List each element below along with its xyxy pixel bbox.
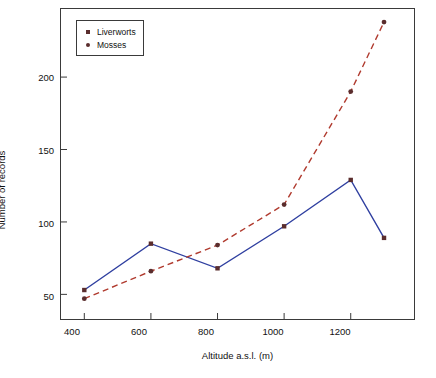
data-point-mosses-600 [149,269,154,274]
x-axis-title: Altitude a.s.l. (m) [60,350,415,361]
x-tick-label-400: 400 [52,326,92,337]
x-tick-label-1200: 1200 [320,326,360,337]
legend-item-mosses: Mosses [82,38,136,51]
square-marker-icon [82,30,94,34]
y-tick-label-50: 50 [14,291,54,302]
y-tick-label-200: 200 [14,72,54,83]
data-point-liverworts-1000 [282,224,286,228]
data-point-mosses-1200 [348,89,353,94]
x-tick-label-800: 800 [186,326,226,337]
data-point-liverworts-1200 [349,178,353,182]
data-point-mosses-800 [215,243,220,248]
data-point-liverworts-800 [215,266,219,270]
legend-label-liverworts: Liverworts [97,27,136,37]
legend: Liverworts Mosses [76,20,144,56]
data-point-liverworts-1300 [382,236,386,240]
data-point-liverworts-600 [149,241,153,245]
x-tick-label-600: 600 [119,326,159,337]
legend-label-mosses: Mosses [97,40,126,50]
y-tick-label-150: 150 [14,145,54,156]
data-point-mosses-1300 [382,20,387,25]
circle-marker-icon [82,43,94,47]
y-axis-title-text: Number of records [0,110,7,270]
data-point-liverworts-400 [82,288,86,292]
legend-item-liverworts: Liverworts [82,25,136,38]
data-point-mosses-1000 [282,202,287,207]
x-tick-label-1000: 1000 [253,326,293,337]
chart-container: 200 150 100 50 400 600 800 1000 1200 Num… [0,0,436,378]
data-point-mosses-400 [82,296,87,301]
y-tick-label-100: 100 [14,218,54,229]
